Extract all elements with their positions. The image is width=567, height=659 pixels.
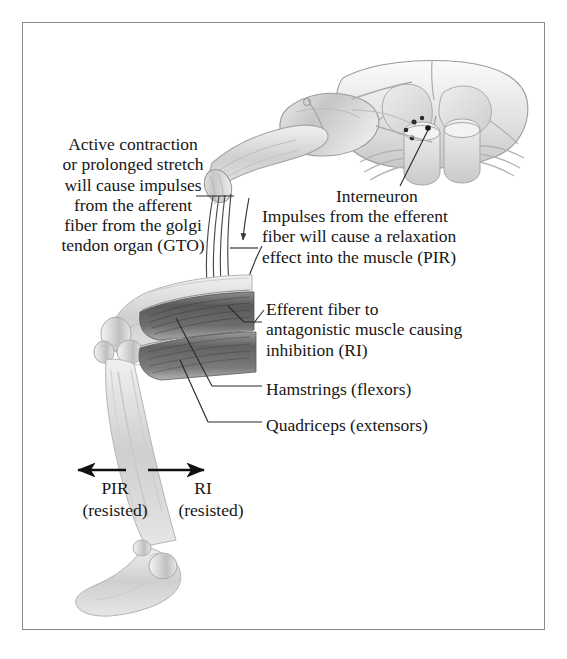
hamstrings-label: Hamstrings (flexors) bbox=[266, 379, 411, 399]
efferent-ri-note-label: Efferent fiber to antagonistic muscle ca… bbox=[266, 299, 528, 360]
interneuron-label: Interneuron bbox=[336, 186, 486, 206]
quadriceps-label: Quadriceps (extensors) bbox=[266, 415, 428, 435]
pir-label: PIR bbox=[78, 478, 152, 498]
ri-sublabel: (resisted) bbox=[152, 500, 270, 520]
afferent-note-label: Active contraction or prolonged stretch … bbox=[30, 134, 236, 256]
efferent-pir-note-label: Impulses from the efferent fiber will ca… bbox=[262, 206, 522, 267]
ri-label: RI bbox=[166, 478, 240, 498]
